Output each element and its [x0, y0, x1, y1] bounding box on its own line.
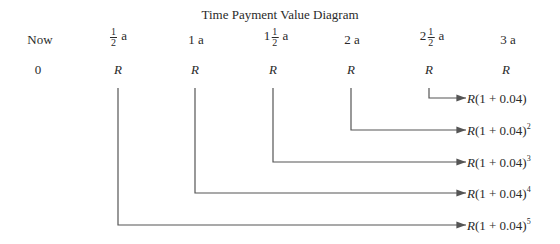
result-label: R(1 + 0.04)3: [467, 154, 531, 171]
result-label: R(1 + 0.04)2: [467, 122, 531, 139]
result-label: R(1 + 0.04)5: [467, 217, 531, 234]
result-label: R(1 + 0.04): [467, 90, 527, 107]
result-label: R(1 + 0.04)4: [467, 185, 531, 202]
